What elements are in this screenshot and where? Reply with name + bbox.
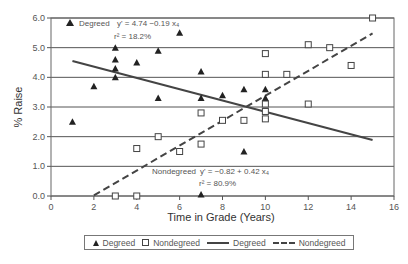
y-axis-label: % Raise [12, 87, 24, 128]
scatter-chart: 0.01.02.03.04.05.06.0 0246810121416 Degr… [0, 0, 408, 232]
degreed-point [198, 191, 205, 198]
nondegreed-point [112, 193, 118, 199]
degreed-annotation-label: Degreed [79, 19, 110, 28]
y-tick-label: 5.0 [32, 43, 45, 53]
x-tick-label: 14 [346, 202, 356, 212]
y-tick-label: 0.0 [32, 191, 45, 201]
degreed-annotation: Degreed y' = 4.74 −0.19 x₄ r² = 18.2% [66, 19, 179, 41]
degreed-point [133, 59, 140, 66]
degreed-point [176, 29, 183, 35]
degreed-point [240, 86, 247, 93]
nondegreed-point [220, 117, 226, 123]
legend-item-degreed-trend: Degreed [207, 238, 266, 248]
legend-label: Nondegreed [153, 238, 200, 248]
degreed-point [112, 65, 119, 72]
degreed-point [262, 95, 269, 102]
x-tick-label: 12 [303, 202, 313, 212]
y-tick-label: 3.0 [32, 102, 45, 112]
nondegreed-point [348, 62, 354, 68]
degreed-point [112, 56, 119, 63]
y-axis-ticks: 0.01.02.03.04.05.06.0 [32, 13, 51, 201]
x-tick-label: 0 [48, 202, 53, 212]
nondegreed-point [155, 134, 161, 140]
degreed-equation: y' = 4.74 −0.19 x₄ [117, 19, 179, 28]
solid-line-icon [207, 242, 229, 244]
nondegreed-r2: r² = 80.9% [199, 179, 236, 188]
x-tick-label: 2 [91, 202, 96, 212]
nondegreed-point [284, 71, 290, 77]
x-axis-ticks: 0246810121416 [48, 196, 399, 212]
y-tick-label: 1.0 [32, 161, 45, 171]
degreed-point [262, 86, 269, 93]
nondegreed-point [134, 193, 140, 199]
nondegreed-point [262, 51, 268, 57]
degreed-trendline [72, 61, 372, 140]
legend-label: Nondegreed [299, 238, 346, 248]
nondegreed-point [327, 45, 333, 51]
degreed-point [155, 95, 162, 102]
degreed-point [198, 68, 205, 75]
nondegreed-point [198, 141, 204, 147]
legend: Degreed Nondegreed Degreed Nondegreed [84, 235, 354, 250]
legend-item-nondegreed-trend: Nondegreed [273, 238, 346, 248]
nondegreed-point [262, 101, 268, 107]
legend-label: Degreed [103, 238, 136, 248]
legend-label: Degreed [233, 238, 266, 248]
nondegreed-point [262, 108, 268, 114]
nondegreed-point [262, 71, 268, 77]
nondegreed-point [198, 110, 204, 116]
y-tick-label: 6.0 [32, 13, 45, 23]
x-tick-label: 4 [134, 202, 139, 212]
nondegreed-point [305, 42, 311, 48]
nondegreed-point [305, 101, 311, 107]
degreed-r2: r² = 18.2% [114, 32, 151, 41]
y-tick-label: 4.0 [32, 72, 45, 82]
triangle-marker-icon [66, 19, 74, 26]
y-tick-label: 2.0 [32, 132, 45, 142]
nondegreed-point [370, 15, 376, 21]
degreed-point [69, 118, 76, 125]
degreed-point [240, 148, 247, 155]
x-axis-label: Time in Grade (Years) [167, 211, 274, 223]
dashed-line-icon [273, 242, 295, 244]
nondegreed-annotation-label: Nondegreed [152, 167, 196, 176]
legend-item-degreed-points: Degreed [93, 238, 136, 248]
x-tick-label: 16 [389, 202, 399, 212]
degreed-point [90, 83, 97, 90]
nondegreed-point [134, 146, 140, 152]
nondegreed-annotation: Nondegreed y' = −0.82 + 0.42 x₄ r² = 80.… [152, 167, 269, 188]
degreed-point [219, 92, 226, 99]
nondegreed-equation: y' = −0.82 + 0.42 x₄ [200, 167, 269, 176]
square-marker-icon [142, 239, 149, 246]
nondegreed-point [262, 116, 268, 122]
triangle-marker-icon [93, 240, 99, 246]
nondegreed-point [177, 149, 183, 155]
nondegreed-point [241, 117, 247, 123]
legend-item-nondegreed-points: Nondegreed [142, 238, 200, 248]
